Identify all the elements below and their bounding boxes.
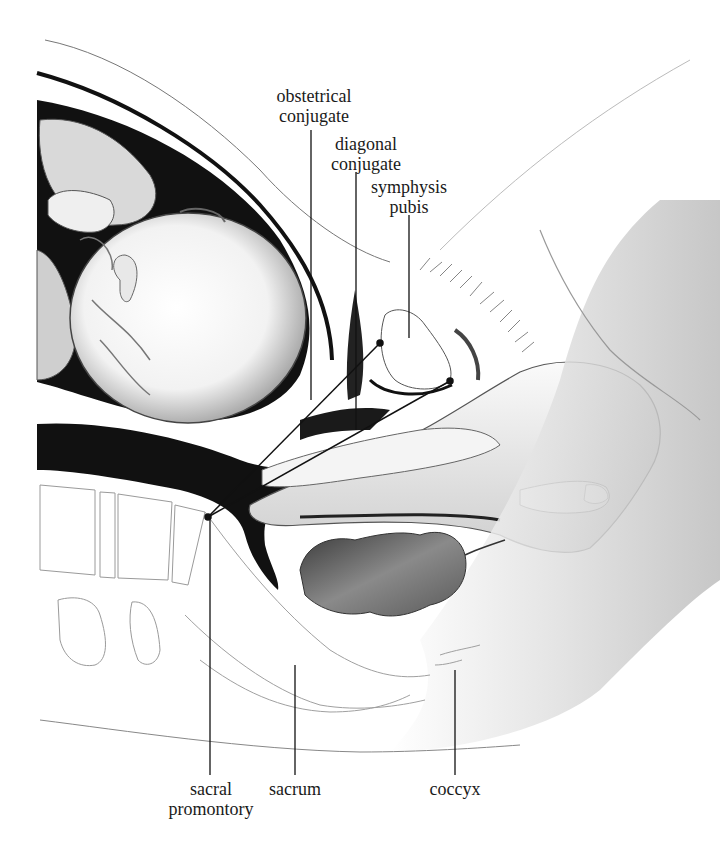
label-coccyx: coccyx bbox=[425, 779, 485, 799]
label-coccyx-text: coccyx bbox=[425, 779, 485, 799]
label-sacrum: sacrum bbox=[262, 779, 328, 799]
label-sacral-promontory: sacral promontory bbox=[165, 779, 257, 819]
symphysis-inner-point bbox=[377, 340, 383, 346]
label-sacral-promontory-line1: sacral bbox=[165, 779, 257, 799]
lumbar-vertebrae bbox=[40, 485, 205, 666]
fetal-head bbox=[70, 213, 306, 423]
label-obstetrical-conjugate: obstetrical conjugate bbox=[266, 86, 362, 126]
symphysis-pubis-bone bbox=[381, 310, 451, 389]
label-symphysis-pubis: symphysis pubis bbox=[366, 177, 452, 217]
label-symphysis-pubis-line2: pubis bbox=[366, 197, 452, 217]
label-diagonal-conjugate-line1: diagonal bbox=[322, 134, 410, 154]
symphysis-lower-point bbox=[447, 378, 453, 384]
label-sacral-promontory-line2: promontory bbox=[165, 799, 257, 819]
rectum bbox=[300, 532, 466, 616]
labia bbox=[455, 330, 478, 380]
label-diagonal-conjugate-line2: conjugate bbox=[322, 154, 410, 174]
sacral-promontory-point bbox=[205, 514, 211, 520]
label-symphysis-pubis-line1: symphysis bbox=[366, 177, 452, 197]
label-diagonal-conjugate: diagonal conjugate bbox=[322, 134, 410, 174]
cervix bbox=[347, 290, 364, 400]
vaginal-fornix bbox=[300, 408, 390, 440]
pubic-hair bbox=[420, 258, 534, 352]
pelvis-illustration bbox=[0, 0, 720, 846]
label-obstetrical-conjugate-line2: conjugate bbox=[266, 106, 362, 126]
label-sacrum-text: sacrum bbox=[262, 779, 328, 799]
label-obstetrical-conjugate-line1: obstetrical bbox=[266, 86, 362, 106]
